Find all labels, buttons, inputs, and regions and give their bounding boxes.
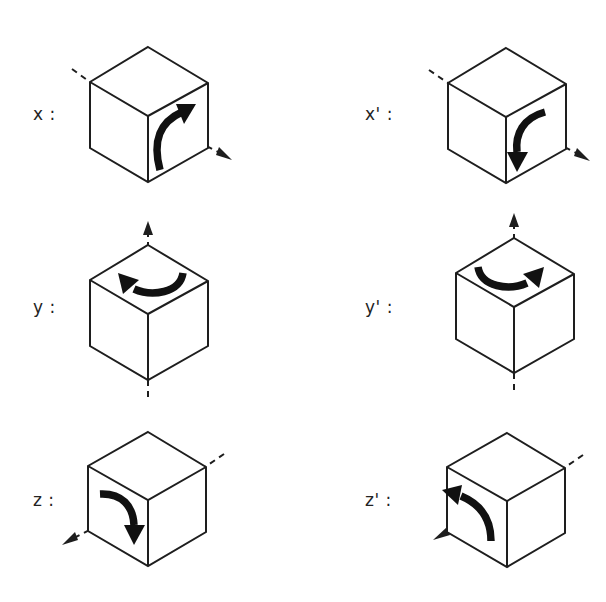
cube-svg-y-prime xyxy=(303,201,606,401)
y-axis-arrowhead-icon xyxy=(509,213,519,227)
cube-svg-x-prime xyxy=(303,0,606,201)
cube-diagram-y-prime: y' : xyxy=(303,201,606,401)
cube-diagram-z: z : xyxy=(0,401,303,602)
x-axis-dash-back xyxy=(72,69,90,82)
y-axis-arrowhead-icon xyxy=(143,221,153,235)
cube-diagram-z-prime: z' : xyxy=(303,401,606,602)
cube-svg-z-prime xyxy=(303,401,606,602)
z-axis-arrowhead-icon xyxy=(62,532,78,545)
cube-diagram-x: x : xyxy=(0,0,303,201)
cube-svg-z xyxy=(0,401,303,602)
z-axis-dash-back xyxy=(205,454,224,467)
cube-rotation-figure: x : x' : xyxy=(0,0,606,602)
cube-diagram-y: y : xyxy=(0,201,303,401)
x-axis-arrowhead-icon xyxy=(216,147,232,160)
cube-diagram-x-prime: x' : xyxy=(303,0,606,201)
z-axis-dash-back xyxy=(564,455,583,468)
x-axis-dash-back xyxy=(429,70,448,83)
cube-svg-y xyxy=(0,201,303,401)
cube-svg-x xyxy=(0,0,303,201)
x-axis-arrowhead-icon xyxy=(574,148,590,161)
